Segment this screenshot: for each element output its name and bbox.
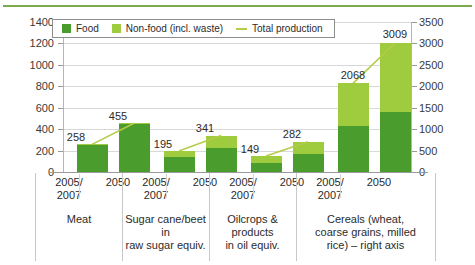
data-label-sugar-2050: 341: [185, 122, 225, 134]
right-axis-tick-3000: 3000: [419, 38, 467, 49]
bar-segment-nonfood: [380, 43, 411, 112]
bar-oilcrops-2050[interactable]: [293, 142, 324, 172]
legend-item-total-production[interactable]: Total production: [236, 24, 323, 34]
x-axis-baseline: [49, 172, 428, 173]
data-label-oilcrops-2005-2007: 149: [230, 143, 270, 155]
left-axis-tick-1400: 1400: [8, 17, 54, 28]
bar-cereals-2005-2007[interactable]: [338, 83, 369, 172]
group-label-oilcrops: Oilcrops & products in oil equiv.: [209, 213, 296, 252]
bar-segment-nonfood: [338, 83, 369, 125]
bar-segment-food: [251, 163, 282, 172]
left-axis-tick-800: 800: [8, 81, 54, 92]
right-axis-tick-1500: 1500: [419, 103, 467, 114]
bar-segment-food: [164, 157, 195, 172]
left-axis-tick-400: 400: [8, 124, 54, 135]
right-axis-tick-3500: 3500: [419, 17, 467, 28]
right-axis-tick-2000: 2000: [419, 81, 467, 92]
right-axis-tick-2500: 2500: [419, 60, 467, 71]
square-swatch-icon: [112, 24, 121, 33]
bar-cereals-2050[interactable]: [380, 43, 411, 172]
left-axis-tick-1200: 1200: [8, 38, 54, 49]
group-label-meat: Meat: [36, 213, 122, 226]
data-label-meat-2050: 455: [98, 110, 138, 122]
legend-item-nonfood[interactable]: Non-food (incl. waste): [112, 24, 223, 34]
x-label-cereals-2050: 2050: [346, 176, 412, 189]
data-label-cereals-2005-2007: 2068: [331, 69, 375, 81]
square-swatch-icon: [62, 24, 71, 33]
data-label-cereals-2050: 3009: [373, 28, 417, 40]
bar-segment-food: [338, 126, 369, 173]
bar-meat-2005-2007[interactable]: [77, 144, 108, 172]
bar-segment-nonfood: [293, 142, 324, 154]
bar-segment-food: [77, 145, 108, 172]
right-axis-tick-500: 500: [419, 146, 467, 157]
group-separator: [435, 173, 436, 261]
left-axis-tick-1000: 1000: [8, 60, 54, 71]
bar-separator: [253, 174, 254, 198]
legend-label-food: Food: [76, 24, 99, 34]
line-swatch-icon: [236, 28, 247, 30]
data-label-meat-2005-2007: 258: [56, 131, 96, 143]
bar-separator: [166, 174, 167, 198]
right-axis-tick-1000: 1000: [419, 124, 467, 135]
bar-segment-food: [293, 154, 324, 172]
data-label-oilcrops-2050: 282: [272, 128, 312, 140]
left-axis-tick-600: 600: [8, 103, 54, 114]
bar-segment-nonfood: [251, 156, 282, 163]
data-label-sugar-2005-2007: 195: [143, 138, 183, 150]
gridline: [64, 65, 411, 66]
group-label-cereals: Cereals (wheat, coarse grains, milled ri…: [296, 213, 435, 252]
bar-oilcrops-2005-2007[interactable]: [251, 156, 282, 172]
gridline: [64, 43, 411, 44]
chart-container: 1400 1200 1000 800 600 400 200 0 3500 30…: [0, 0, 475, 265]
group-label-sugar: Sugar cane/beet in raw sugar equiv.: [122, 213, 209, 252]
legend-item-food[interactable]: Food: [62, 24, 99, 34]
legend-label-total-production: Total production: [252, 24, 323, 34]
left-axis-tick-200: 200: [8, 146, 54, 157]
bar-sugar-2005-2007[interactable]: [164, 151, 195, 172]
bar-segment-food: [380, 112, 411, 172]
legend-label-nonfood: Non-food (incl. waste): [126, 24, 223, 34]
chart-legend: Food Non-food (incl. waste) Total produc…: [52, 19, 335, 38]
bar-separator: [79, 174, 80, 198]
top-divider-rule: [3, 5, 472, 7]
bar-separator: [340, 174, 341, 198]
